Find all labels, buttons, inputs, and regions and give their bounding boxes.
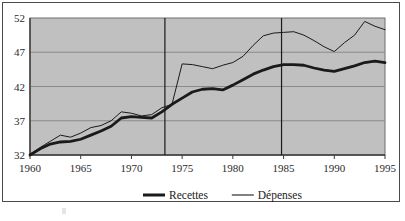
legend-label-recettes: Recettes bbox=[169, 189, 208, 201]
line-chart: 3237424752196019651970197519801985199019… bbox=[0, 0, 405, 221]
y-axis-tick-label: 47 bbox=[14, 46, 26, 58]
y-axis-tick-label: 42 bbox=[14, 81, 25, 93]
x-axis-tick-label: 1975 bbox=[171, 162, 194, 174]
y-axis-tick-label: 37 bbox=[14, 115, 26, 127]
x-axis-tick-label: 1980 bbox=[222, 162, 245, 174]
scan-artifact bbox=[62, 208, 66, 214]
x-axis-tick-label: 1970 bbox=[120, 162, 143, 174]
x-axis-tick-label: 1960 bbox=[19, 162, 42, 174]
y-axis-tick-label: 52 bbox=[14, 12, 25, 24]
y-axis-tick-label: 32 bbox=[14, 149, 25, 161]
x-axis-tick-label: 1995 bbox=[374, 162, 397, 174]
x-axis-tick-label: 1990 bbox=[323, 162, 346, 174]
x-axis-tick-label: 1985 bbox=[273, 162, 296, 174]
chart-figure: 3237424752196019651970197519801985199019… bbox=[0, 0, 405, 221]
x-axis-tick-label: 1965 bbox=[70, 162, 93, 174]
legend-label-dpenses: Dépenses bbox=[258, 189, 303, 202]
